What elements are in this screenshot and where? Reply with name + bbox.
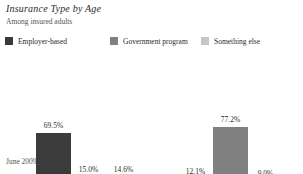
bar-value-aged-65-and-older-something-else: 9.0% bbox=[240, 169, 291, 174]
legend-item-something-else: Something else bbox=[201, 34, 260, 48]
chart-subtitle: Among insured adults bbox=[6, 17, 72, 26]
bar-value-ages-18-64-something-else: 14.6% bbox=[98, 165, 149, 174]
chart-legend: Employer-based Government program Someth… bbox=[5, 34, 298, 48]
bar-value-ages-18-64-employer-based: 69.5% bbox=[28, 121, 79, 130]
legend-swatch-employer-based bbox=[5, 37, 13, 45]
bar-aged-65-and-older-government-program bbox=[213, 127, 248, 174]
chart-plot-area: 69.5% 15.0% 14.6% Ages 18-64 12.1% 77.2%… bbox=[0, 55, 303, 135]
legend-label-employer-based: Employer-based bbox=[18, 37, 67, 46]
legend-swatch-something-else bbox=[201, 37, 209, 45]
footer-source-note: June 2009 bbox=[6, 157, 37, 166]
legend-item-employer-based: Employer-based bbox=[5, 34, 67, 48]
legend-item-government-program: Government program bbox=[110, 34, 188, 48]
legend-swatch-government-program bbox=[110, 37, 118, 45]
legend-label-government-program: Government program bbox=[123, 37, 188, 46]
legend-label-something-else: Something else bbox=[214, 37, 260, 46]
chart-title: Insurance Type by Age bbox=[6, 3, 101, 14]
bar-value-aged-65-and-older-government-program: 77.2% bbox=[205, 115, 256, 124]
